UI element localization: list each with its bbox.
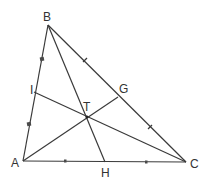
label-b: B — [43, 10, 51, 24]
segment-bh — [48, 25, 105, 162]
tick-mark-ab-1 — [40, 57, 45, 62]
tick-mark-ac-1 — [64, 160, 67, 163]
segment-bc — [48, 25, 186, 162]
label-c: C — [190, 157, 199, 171]
label-a: A — [11, 156, 19, 170]
segment-ag — [23, 97, 118, 161]
label-h: H — [101, 166, 110, 180]
label-t: T — [83, 100, 91, 114]
label-g: G — [119, 82, 128, 96]
label-i: I — [30, 83, 33, 97]
tick-mark-ac-2 — [145, 161, 148, 164]
intersection-point-t — [86, 116, 89, 119]
tick-mark-ab-2 — [27, 122, 32, 127]
triangle-diagram: B A C I G T H — [0, 0, 209, 182]
